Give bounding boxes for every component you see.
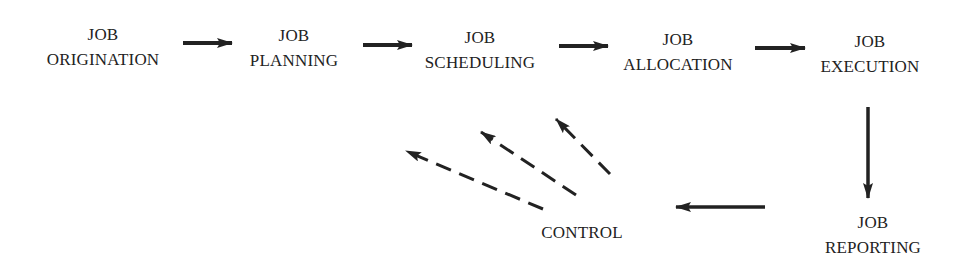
node-label-line1: JOB — [820, 29, 919, 54]
dashed-arrow-control-to-scheduling — [556, 119, 610, 174]
node-label-line2: EXECUTION — [820, 54, 919, 79]
node-job-allocation: JOB ALLOCATION — [623, 27, 733, 77]
node-label-line1: CONTROL — [541, 220, 623, 245]
node-label-line2: ALLOCATION — [623, 52, 733, 77]
node-label-line1: JOB — [47, 22, 160, 47]
node-label-line2: REPORTING — [825, 235, 921, 260]
node-label-line1: JOB — [425, 25, 536, 50]
node-label-line2: ORIGINATION — [47, 47, 160, 72]
node-job-planning: JOB PLANNING — [250, 23, 338, 73]
dashed-arrow-control-to-planning — [481, 132, 576, 195]
node-control: CONTROL — [541, 220, 623, 245]
node-label-line1: JOB — [623, 27, 733, 52]
job-flow-diagram: JOB ORIGINATION JOB PLANNING JOB SCHEDUL… — [0, 0, 964, 265]
node-job-origination: JOB ORIGINATION — [47, 22, 160, 72]
node-label-line1: JOB — [825, 210, 921, 235]
node-job-scheduling: JOB SCHEDULING — [425, 25, 536, 75]
node-label-line1: JOB — [250, 23, 338, 48]
node-job-execution: JOB EXECUTION — [820, 29, 919, 79]
node-job-reporting: JOB REPORTING — [825, 210, 921, 260]
node-label-line2: SCHEDULING — [425, 50, 536, 75]
node-label-line2: PLANNING — [250, 48, 338, 73]
